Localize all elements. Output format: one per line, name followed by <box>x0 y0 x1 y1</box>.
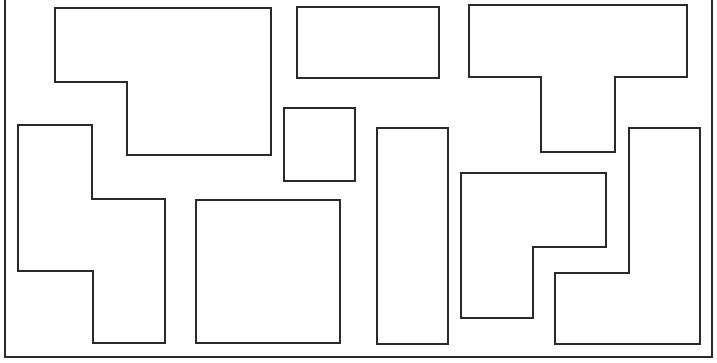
shape-left-step <box>18 125 165 343</box>
diagram-canvas <box>0 0 717 363</box>
shape-top-right-t <box>469 5 687 152</box>
shape-top-left-step <box>55 8 271 155</box>
shape-right-l <box>555 128 700 344</box>
shape-right-step <box>461 173 606 318</box>
shape-small-square <box>284 108 355 181</box>
diagram-svg <box>0 0 717 363</box>
shapes-group <box>18 5 700 344</box>
shape-large-square <box>196 200 340 343</box>
shape-tall-rect <box>377 128 448 344</box>
shape-top-middle-rect <box>297 7 439 78</box>
